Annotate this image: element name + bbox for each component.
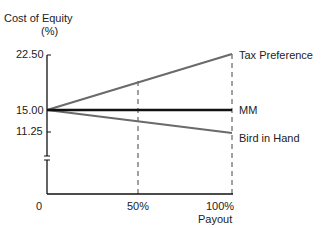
y-tick-label-11-25: 11.25 <box>16 125 43 137</box>
y-tick-label-22-50: 22.50 <box>16 48 44 60</box>
y-axis-unit: (%) <box>41 25 58 37</box>
legend-tax-preference: Tax Preference <box>239 49 313 61</box>
x-axis-title: Payout <box>198 213 232 225</box>
y-tick-label-15-00: 15.00 <box>16 104 44 116</box>
legend-bird-in-hand: Bird in Hand <box>239 132 300 144</box>
y-axis-title: Cost of Equity <box>4 12 72 24</box>
x-tick-label-100: 100% <box>206 200 234 212</box>
x-tick-label-50: 50% <box>127 200 149 212</box>
legend-mm: MM <box>239 104 257 116</box>
series-bird-in-hand <box>47 110 232 133</box>
series-tax-preference <box>47 54 232 110</box>
x-tick-label-0: 0 <box>36 200 42 212</box>
